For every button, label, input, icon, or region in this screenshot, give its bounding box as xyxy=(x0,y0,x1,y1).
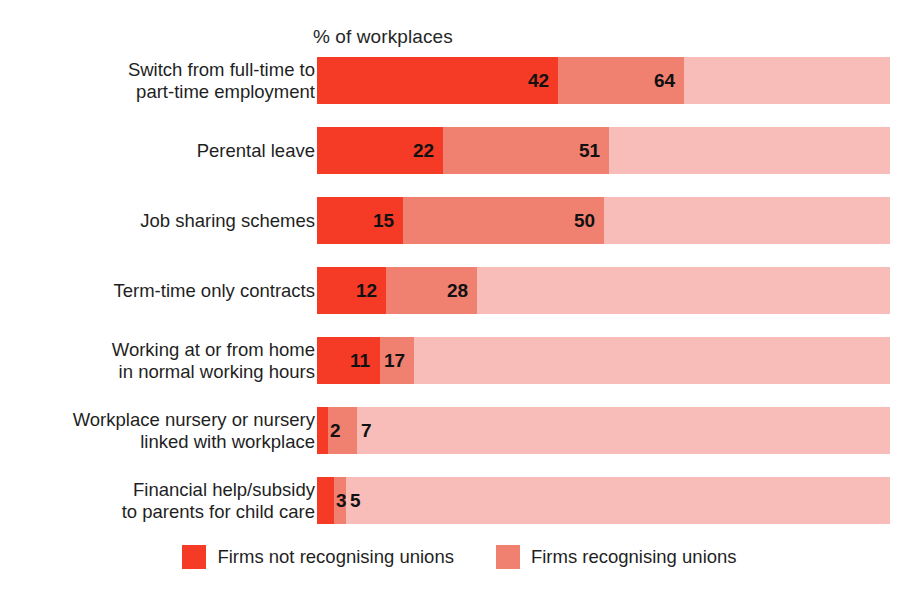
bar-segment-firms-not-recognising-unions xyxy=(317,407,328,454)
value-label-outer: 28 xyxy=(447,280,468,302)
legend-item[interactable]: Firms not recognising unions xyxy=(182,545,454,569)
value-label-outer: 7 xyxy=(361,420,372,442)
category-label: Financial help/subsidy to parents for ch… xyxy=(15,479,315,523)
value-label-inner: 12 xyxy=(356,280,377,302)
value-label-outer: 17 xyxy=(384,350,405,372)
legend-swatch-icon xyxy=(496,545,520,569)
chart-row: Job sharing schemes1550 xyxy=(0,197,919,244)
chart-row: Workplace nursery or nursery linked with… xyxy=(0,407,919,454)
bar-segment-firms-not-recognising-unions xyxy=(317,337,380,384)
bar-track: 2251 xyxy=(317,127,890,174)
category-label: Perental leave xyxy=(15,140,315,162)
x-axis-title: % of workplaces xyxy=(313,26,453,48)
category-label: Switch from full-time to part-time emplo… xyxy=(15,59,315,103)
chart-row: Working at or from home in normal workin… xyxy=(0,337,919,384)
bar-track: 4264 xyxy=(317,57,890,104)
chart-row: Switch from full-time to part-time emplo… xyxy=(0,57,919,104)
value-label-inner: 42 xyxy=(528,70,549,92)
bar-track: 27 xyxy=(317,407,890,454)
bar-track: 1550 xyxy=(317,197,890,244)
value-label-outer: 50 xyxy=(574,210,595,232)
category-label: Workplace nursery or nursery linked with… xyxy=(15,409,315,453)
legend-label: Firms not recognising unions xyxy=(217,546,454,568)
legend-swatch-icon xyxy=(182,545,206,569)
value-label-outer: 64 xyxy=(654,70,675,92)
value-label-inner: 2 xyxy=(330,420,341,442)
value-label-inner: 11 xyxy=(350,350,370,372)
chart-legend: Firms not recognising unionsFirms recogn… xyxy=(0,545,919,569)
value-label-outer: 51 xyxy=(579,140,600,162)
legend-item[interactable]: Firms recognising unions xyxy=(496,545,737,569)
bar-segment-firms-not-recognising-unions xyxy=(317,57,558,104)
category-label: Term-time only contracts xyxy=(15,280,315,302)
legend-label: Firms recognising unions xyxy=(531,546,737,568)
chart-container: % of workplaces Switch from full-time to… xyxy=(0,0,919,606)
value-label-outer: 5 xyxy=(350,490,361,512)
chart-row: Perental leave2251 xyxy=(0,127,919,174)
chart-row: Term-time only contracts1228 xyxy=(0,267,919,314)
category-label: Working at or from home in normal workin… xyxy=(15,339,315,383)
bar-track: 1117 xyxy=(317,337,890,384)
bar-track: 1228 xyxy=(317,267,890,314)
category-label: Job sharing schemes xyxy=(15,210,315,232)
value-label-inner: 15 xyxy=(373,210,394,232)
plot-area: Switch from full-time to part-time emplo… xyxy=(0,57,919,547)
bar-segment-firms-not-recognising-unions xyxy=(317,477,334,524)
value-label-inner: 22 xyxy=(413,140,434,162)
bar-track: 35 xyxy=(317,477,890,524)
chart-row: Financial help/subsidy to parents for ch… xyxy=(0,477,919,524)
value-label-inner: 3 xyxy=(336,490,347,512)
